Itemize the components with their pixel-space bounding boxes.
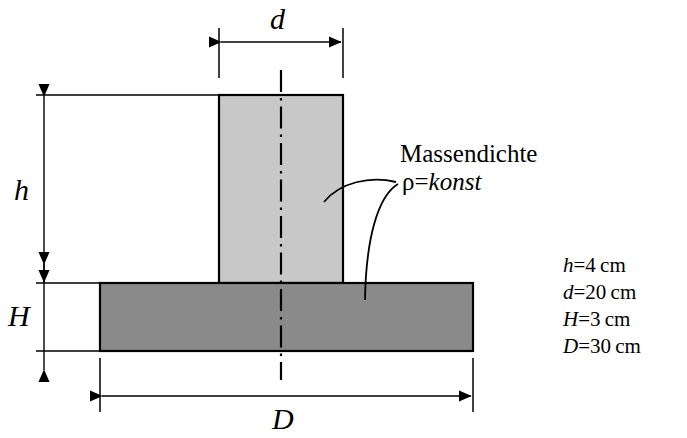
parameter-row: D=30 cm bbox=[563, 336, 641, 357]
parameter-row: d=20 cm bbox=[563, 282, 641, 303]
parameter-symbol: D bbox=[563, 334, 578, 358]
parameter-symbol: h bbox=[563, 253, 574, 277]
parameter-equals: = bbox=[574, 253, 586, 277]
parameter-equals: = bbox=[574, 280, 586, 304]
parameter-row: H=3 cm bbox=[563, 309, 641, 330]
dimension-label-H: H bbox=[8, 301, 30, 331]
parameter-unit: cm bbox=[615, 334, 641, 358]
rho-symbol: ρ bbox=[402, 168, 414, 195]
annotation-density-equation: ρ=konst bbox=[402, 169, 481, 194]
base-plate-shape bbox=[100, 283, 473, 351]
parameter-equals: = bbox=[578, 334, 590, 358]
annotation-title: Massendichte bbox=[400, 141, 537, 166]
parameter-unit: cm bbox=[605, 307, 631, 331]
parameter-list: h=4 cm d=20 cm H=3 cm D=30 cm bbox=[563, 255, 641, 357]
dimension-label-h: h bbox=[14, 175, 29, 205]
parameter-row: h=4 cm bbox=[563, 255, 641, 276]
parameter-unit: cm bbox=[600, 253, 626, 277]
rho-value: konst bbox=[429, 168, 482, 195]
dimension-h bbox=[36, 95, 219, 283]
rho-equals: = bbox=[414, 168, 428, 195]
parameter-value: 30 bbox=[590, 334, 611, 358]
technical-drawing-figure: d h H D Massendichte ρ=konst h=4 cm d=20… bbox=[0, 0, 687, 438]
parameter-value: 3 bbox=[590, 307, 601, 331]
parameter-value: 20 bbox=[585, 280, 606, 304]
dimension-label-d: d bbox=[270, 4, 285, 34]
parameter-value: 4 bbox=[585, 253, 596, 277]
parameter-equals: = bbox=[578, 307, 590, 331]
dimension-H bbox=[36, 264, 100, 370]
drawing-canvas bbox=[0, 0, 687, 438]
parameter-symbol: d bbox=[563, 280, 574, 304]
parameter-unit: cm bbox=[611, 280, 637, 304]
dimension-label-D: D bbox=[272, 404, 294, 434]
parameter-symbol: H bbox=[563, 307, 578, 331]
